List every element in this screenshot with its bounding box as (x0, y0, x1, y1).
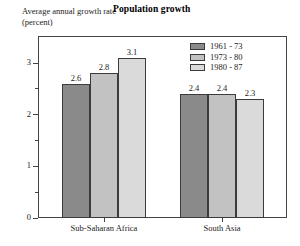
y-axis-tick-label: 2 (27, 109, 31, 120)
legend-item: 1961 - 73 (190, 42, 243, 52)
bar (180, 94, 208, 218)
bar (118, 58, 146, 218)
category-tick (104, 218, 105, 222)
bar-value-label: 2.6 (62, 73, 90, 83)
bar (236, 99, 264, 218)
legend-item: 1973 - 80 (190, 53, 243, 63)
legend-swatch (190, 64, 205, 71)
y-axis-tick-label: 0 (27, 212, 31, 223)
bar (62, 84, 90, 218)
legend-label: 1973 - 80 (210, 53, 243, 63)
chart-legend: 1961 - 731973 - 801980 - 87 (190, 42, 243, 74)
legend-swatch (190, 43, 205, 50)
bar-value-label: 2.4 (180, 83, 208, 93)
chart-title: Population growth (113, 4, 190, 14)
y-axis: 0123 (0, 36, 38, 219)
category-label: South Asia (162, 223, 282, 234)
y-axis-tick-label: 3 (27, 57, 31, 68)
bar (90, 73, 118, 218)
y-axis-tick-label: 1 (27, 160, 31, 171)
bar (208, 94, 236, 218)
bar-value-label: 2.4 (208, 83, 236, 93)
category-label: Sub-Saharan Africa (44, 223, 164, 234)
bar-value-label: 3.1 (118, 47, 146, 57)
bar-value-label: 2.8 (90, 62, 118, 72)
legend-label: 1961 - 73 (210, 42, 243, 52)
legend-label: 1980 - 87 (210, 63, 243, 73)
legend-swatch (190, 54, 205, 61)
bar-value-label: 2.3 (236, 88, 264, 98)
y-axis-title: Average annual growth rate (percent) (22, 6, 118, 27)
legend-item: 1980 - 87 (190, 63, 243, 73)
plot-area: 2.62.83.12.42.42.3 (38, 36, 287, 218)
category-tick (222, 218, 223, 222)
